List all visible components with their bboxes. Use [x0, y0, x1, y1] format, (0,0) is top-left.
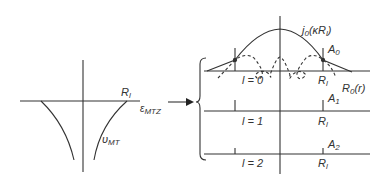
l-label-1: l = 1 [242, 115, 263, 127]
radius-label: Rl [121, 86, 131, 100]
amplitude-label-1: A1 [327, 92, 340, 106]
radial-function-label: R0(r) [342, 82, 366, 96]
match-point-right [321, 58, 324, 61]
l-label-2: l = 2 [242, 157, 263, 169]
l-label-0: l = 0 [242, 74, 264, 86]
muffin-tin-diagram: Rl εMTZ υMT j0(κRl) R0(r) l = 0 A0 Rl [0, 0, 389, 178]
radius-label-2: Rl [318, 157, 328, 171]
amplitude-label-0: A0 [327, 43, 340, 57]
potential-curve-left [41, 101, 74, 160]
match-point-left [233, 58, 236, 61]
arrow-right-icon [168, 98, 194, 106]
energy-mtz-label: εMTZ [140, 103, 162, 116]
radius-label-0: Rl [318, 74, 328, 88]
partial-wave-plots [204, 16, 370, 174]
radius-label-1: Rl [318, 115, 328, 129]
muffin-tin-potential-plot [20, 60, 140, 172]
curly-brace [196, 58, 206, 160]
amplitude-label-2: A2 [327, 138, 340, 152]
potential-curve-right [94, 101, 127, 160]
potential-label: υMT [102, 133, 121, 147]
bessel-label: j0(κRl) [300, 24, 332, 38]
